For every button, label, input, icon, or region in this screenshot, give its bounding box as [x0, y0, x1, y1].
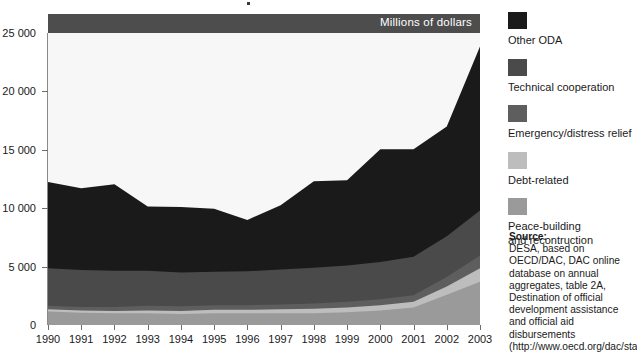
legend-swatch-debt_related: [508, 152, 527, 169]
x-tick-mark: [148, 325, 149, 330]
x-tick-label: 1992: [102, 333, 126, 345]
x-tick-mark: [447, 325, 448, 330]
x-tick-mark: [380, 325, 381, 330]
x-tick-label: 1994: [169, 333, 193, 345]
plot-region: [48, 33, 480, 325]
x-tick-mark: [114, 325, 115, 330]
source-text: DESA, based on OECD/DAC, DAC online data…: [509, 243, 637, 353]
legend-swatch-peace_building: [508, 198, 527, 215]
y-tick-label: 20 000: [2, 85, 36, 97]
y-tick-label: 0: [30, 319, 36, 331]
y-tick-label: 15 000: [2, 144, 36, 156]
x-tick-label: 1995: [202, 333, 226, 345]
x-tick-label: 1998: [302, 333, 326, 345]
legend-item-technical_cooperation: Technical cooperation: [508, 59, 637, 95]
x-axis: 1990199119921993199419951996199719981999…: [48, 325, 480, 362]
x-tick-label: 1996: [235, 333, 259, 345]
x-tick-label: 1993: [135, 333, 159, 345]
legend-swatch-other_oda: [508, 12, 527, 29]
x-tick-mark: [414, 325, 415, 330]
chart-unit-label: Millions of dollars: [380, 16, 472, 28]
x-tick-label: 2003: [468, 333, 492, 345]
chart-banner: Millions of dollars: [48, 14, 480, 33]
y-tick-label: 5 000: [8, 261, 36, 273]
legend-swatch-emergency_distress_relief: [508, 105, 527, 122]
x-tick-mark: [247, 325, 248, 330]
legend-item-emergency_distress_relief: Emergency/distress relief: [508, 105, 637, 141]
legend-swatch-technical_cooperation: [508, 59, 527, 76]
figure-root: Millions of dollars 05 00010 00015 00020…: [0, 0, 637, 362]
x-tick-mark: [214, 325, 215, 330]
chart-area: Millions of dollars 05 00010 00015 00020…: [0, 0, 492, 362]
source-note: Source: DESA, based on OECD/DAC, DAC onl…: [509, 231, 637, 353]
x-tick-label: 2000: [368, 333, 392, 345]
x-tick-mark: [480, 325, 481, 330]
legend-label-technical_cooperation: Technical cooperation: [508, 81, 637, 95]
legend-label-emergency_distress_relief: Emergency/distress relief: [508, 127, 637, 141]
x-tick-mark: [314, 325, 315, 330]
x-tick-mark: [347, 325, 348, 330]
legend-label-other_oda: Other ODA: [508, 34, 637, 48]
x-tick-label: 1991: [69, 333, 93, 345]
y-tick-label: 10 000: [2, 202, 36, 214]
legend-item-debt_related: Debt-related: [508, 152, 637, 188]
legend-item-other_oda: Other ODA: [508, 12, 637, 48]
x-tick-label: 2001: [401, 333, 425, 345]
x-tick-mark: [181, 325, 182, 330]
legend: Other ODATechnical cooperationEmergency/…: [508, 12, 637, 258]
legend-label-debt_related: Debt-related: [508, 174, 637, 188]
area-series-group: [48, 46, 480, 325]
x-tick-label: 1990: [36, 333, 60, 345]
x-tick-label: 1997: [268, 333, 292, 345]
x-tick-mark: [81, 325, 82, 330]
x-tick-mark: [48, 325, 49, 330]
x-tick-label: 2002: [435, 333, 459, 345]
stacked-area-svg: [48, 33, 480, 325]
x-tick-label: 1999: [335, 333, 359, 345]
x-tick-mark: [281, 325, 282, 330]
source-title: Source:: [509, 231, 637, 243]
y-axis: 05 00010 00015 00020 00025 000: [0, 0, 48, 362]
y-tick-label: 25 000: [2, 27, 36, 39]
